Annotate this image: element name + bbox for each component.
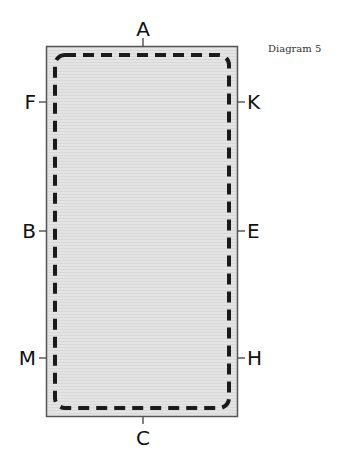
label-e: E xyxy=(247,219,260,243)
label-h: H xyxy=(247,346,262,370)
rectangle-diagram: A C F B M K E H xyxy=(0,0,350,463)
label-m: M xyxy=(19,346,36,370)
label-k: K xyxy=(247,90,261,114)
label-a: A xyxy=(136,17,150,41)
label-c: C xyxy=(136,426,150,450)
rectangle-body xyxy=(47,47,238,417)
label-b: B xyxy=(22,219,36,243)
label-f: F xyxy=(24,90,36,114)
